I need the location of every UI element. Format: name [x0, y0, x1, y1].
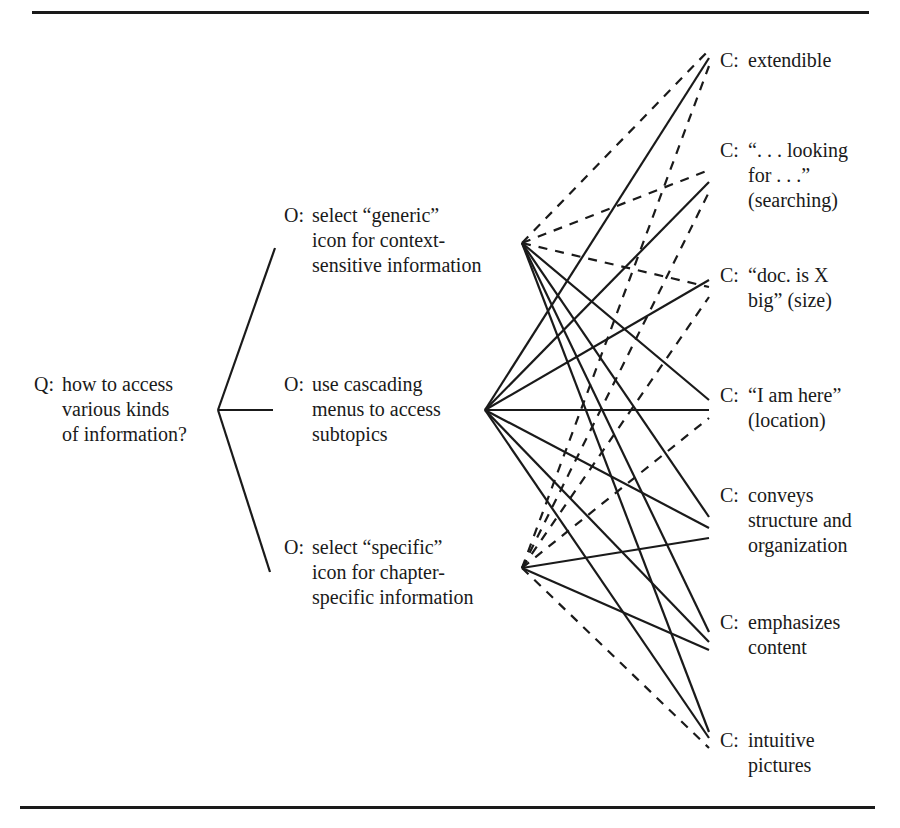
criterion-prefix: C: [720, 48, 748, 73]
option-line: use cascading [312, 373, 423, 395]
link-specific-to-size-dashed [522, 297, 709, 568]
option-line: sensitive information [284, 253, 481, 278]
question-branch-generic [218, 248, 275, 410]
criterion-line: “I am here” [748, 384, 841, 406]
option-line: select “generic” [312, 204, 439, 226]
option-node-generic: O:select “generic” icon for context- sen… [284, 203, 481, 278]
option-line: select “specific” [312, 536, 442, 558]
criterion-prefix: C: [720, 138, 748, 163]
criterion-node-intuitive: C:intuitive pictures [720, 728, 815, 778]
link-cascading-to-intuitive-solid [485, 410, 709, 738]
link-generic-to-extendible-dashed [522, 50, 709, 243]
link-generic-to-intuitive-solid [522, 243, 709, 732]
link-cascading-to-emphasis-solid [485, 410, 709, 642]
link-generic-to-emphasis-solid [522, 243, 709, 632]
criterion-line: (location) [720, 408, 841, 433]
criterion-line: conveys [748, 484, 814, 506]
option-prefix: O: [284, 535, 312, 560]
option-node-cascading: O:use cascading menus to access subtopic… [284, 372, 441, 447]
option-prefix: O: [284, 203, 312, 228]
criterion-line: intuitive [748, 729, 815, 751]
question-line: how to access [62, 373, 173, 395]
question-branch-specific [218, 410, 270, 572]
question-line: various kinds [34, 397, 187, 422]
criterion-line: content [720, 635, 840, 660]
criterion-prefix: C: [720, 483, 748, 508]
criterion-node-extendible: C:extendible [720, 48, 831, 73]
question-prefix: Q: [34, 372, 62, 397]
option-line: specific information [284, 585, 474, 610]
option-prefix: O: [284, 372, 312, 397]
criterion-line: emphasizes [748, 611, 840, 633]
link-cascading-to-searching-solid [485, 182, 709, 410]
criterion-line: structure and [720, 508, 852, 533]
option-line: subtopics [284, 422, 441, 447]
link-specific-to-searching-dashed [522, 192, 709, 568]
criterion-line: for . . .” [720, 163, 848, 188]
link-cascading-to-extendible-solid [485, 58, 709, 410]
criterion-line: “. . . looking [748, 139, 848, 161]
criterion-node-searching: C:“. . . looking for . . .” (searching) [720, 138, 848, 213]
criterion-line: pictures [720, 753, 815, 778]
criterion-node-emphasis: C:emphasizes content [720, 610, 840, 660]
criterion-line: “doc. is X [748, 264, 829, 286]
question-line: of information? [34, 422, 187, 447]
criterion-line: (searching) [720, 188, 848, 213]
criterion-prefix: C: [720, 610, 748, 635]
link-generic-to-location-solid [522, 243, 709, 400]
criterion-prefix: C: [720, 383, 748, 408]
link-specific-to-emphasis-solid [522, 568, 709, 650]
link-generic-to-size-dashed [522, 243, 709, 287]
link-cascading-to-size-solid [485, 280, 709, 410]
criterion-line: big” (size) [720, 288, 832, 313]
option-node-specific: O:select “specific” icon for chapter- sp… [284, 535, 474, 610]
criterion-prefix: C: [720, 728, 748, 753]
criterion-node-size: C:“doc. is X big” (size) [720, 263, 832, 313]
option-line: icon for chapter- [284, 560, 474, 585]
question-branches [218, 248, 275, 572]
criterion-prefix: C: [720, 263, 748, 288]
option-criteria-links [485, 50, 709, 748]
question-node: Q:how to access various kinds of informa… [34, 372, 187, 447]
criterion-line: extendible [748, 49, 831, 71]
option-line: icon for context- [284, 228, 481, 253]
criterion-node-location: C:“I am here” (location) [720, 383, 841, 433]
option-line: menus to access [284, 397, 441, 422]
link-specific-to-structure-solid [522, 538, 709, 568]
criterion-line: organization [720, 533, 852, 558]
criterion-node-structure: C:conveys structure and organization [720, 483, 852, 558]
